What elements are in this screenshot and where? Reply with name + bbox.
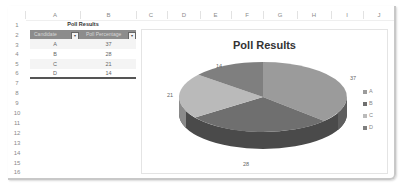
column-header-i[interactable]: I (331, 10, 363, 20)
row-header-6[interactable]: 6 (10, 68, 24, 78)
select-all-corner[interactable] (10, 10, 24, 20)
row-header-8[interactable]: 8 (10, 88, 24, 98)
legend-entry-d[interactable]: D (363, 124, 373, 131)
legend-label: B (369, 100, 373, 106)
header-poll-percentage[interactable]: Poll Percentage (86, 30, 121, 39)
row-header-16[interactable]: 16 (10, 167, 24, 177)
table-bottom-border (30, 77, 136, 79)
legend-entry-a[interactable]: A (363, 88, 373, 95)
row-header-11[interactable]: 11 (10, 118, 24, 128)
legend-entry-c[interactable]: C (363, 112, 373, 119)
row-header-9[interactable]: 9 (10, 98, 24, 108)
row-header-4[interactable]: 4 (10, 49, 24, 59)
column-header-e[interactable]: E (200, 10, 231, 20)
row-header-10[interactable]: 10 (10, 108, 24, 118)
data-label-d[interactable]: 14 (216, 63, 222, 69)
column-header-j[interactable]: J (363, 10, 395, 20)
pie-plot-area (142, 30, 387, 173)
legend-entry-b[interactable]: B (363, 100, 373, 107)
cell-percentage[interactable]: 37 (81, 39, 136, 49)
cell-candidate[interactable]: B (30, 49, 80, 59)
row-header-7[interactable]: 7 (10, 78, 24, 88)
column-divider (25, 11, 26, 19)
row-header-12[interactable]: 12 (10, 128, 24, 138)
column-header-b[interactable]: B (81, 10, 136, 20)
column-header-g[interactable]: G (263, 10, 297, 20)
data-label-a[interactable]: 37 (350, 75, 356, 81)
data-label-b[interactable]: 28 (243, 161, 249, 167)
legend-label: C (369, 112, 373, 118)
legend-swatch-icon (363, 102, 367, 106)
row-header-13[interactable]: 13 (10, 138, 24, 148)
header-candidate[interactable]: Candidate (34, 30, 57, 39)
column-header-f[interactable]: F (231, 10, 263, 20)
pie-chart[interactable]: Poll Results 37 28 21 14 A B C D (141, 29, 388, 174)
table-header-row: Candidate ▾ Poll Percentage ▾ (30, 30, 136, 39)
column-header-h[interactable]: H (297, 10, 331, 20)
legend-label: A (369, 88, 373, 94)
column-header-d[interactable]: D (168, 10, 200, 20)
legend-label: D (369, 124, 373, 130)
cell-candidate[interactable]: A (30, 39, 80, 49)
legend-swatch-icon (363, 114, 367, 118)
column-header-a[interactable]: A (30, 10, 80, 20)
row-header-14[interactable]: 14 (10, 148, 24, 158)
column-header-c[interactable]: C (137, 10, 165, 20)
data-label-c[interactable]: 21 (167, 92, 173, 98)
legend-swatch-icon (363, 126, 367, 130)
row-header-2[interactable]: 2 (10, 30, 24, 40)
table-title[interactable]: Poll Results (30, 20, 136, 29)
cell-percentage[interactable]: 28 (81, 49, 136, 59)
legend-swatch-icon (363, 90, 367, 94)
row-header-1[interactable]: 1 (10, 20, 24, 30)
